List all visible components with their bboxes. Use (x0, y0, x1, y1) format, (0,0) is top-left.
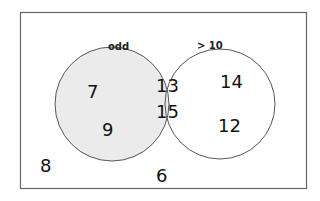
value-15: 15 (156, 101, 179, 122)
value-13: 13 (156, 75, 179, 96)
value-6: 6 (156, 165, 167, 186)
set-odd-label: odd (108, 41, 129, 52)
value-8: 8 (40, 155, 51, 176)
value-12: 12 (218, 115, 241, 136)
value-7: 7 (87, 81, 98, 102)
set-gt10-label: > 10 (197, 40, 223, 51)
value-14: 14 (220, 71, 243, 92)
set-odd-circle (55, 47, 169, 161)
venn-diagram: odd > 10 7 9 13 15 14 12 8 6 (0, 0, 320, 201)
value-9: 9 (102, 119, 113, 140)
